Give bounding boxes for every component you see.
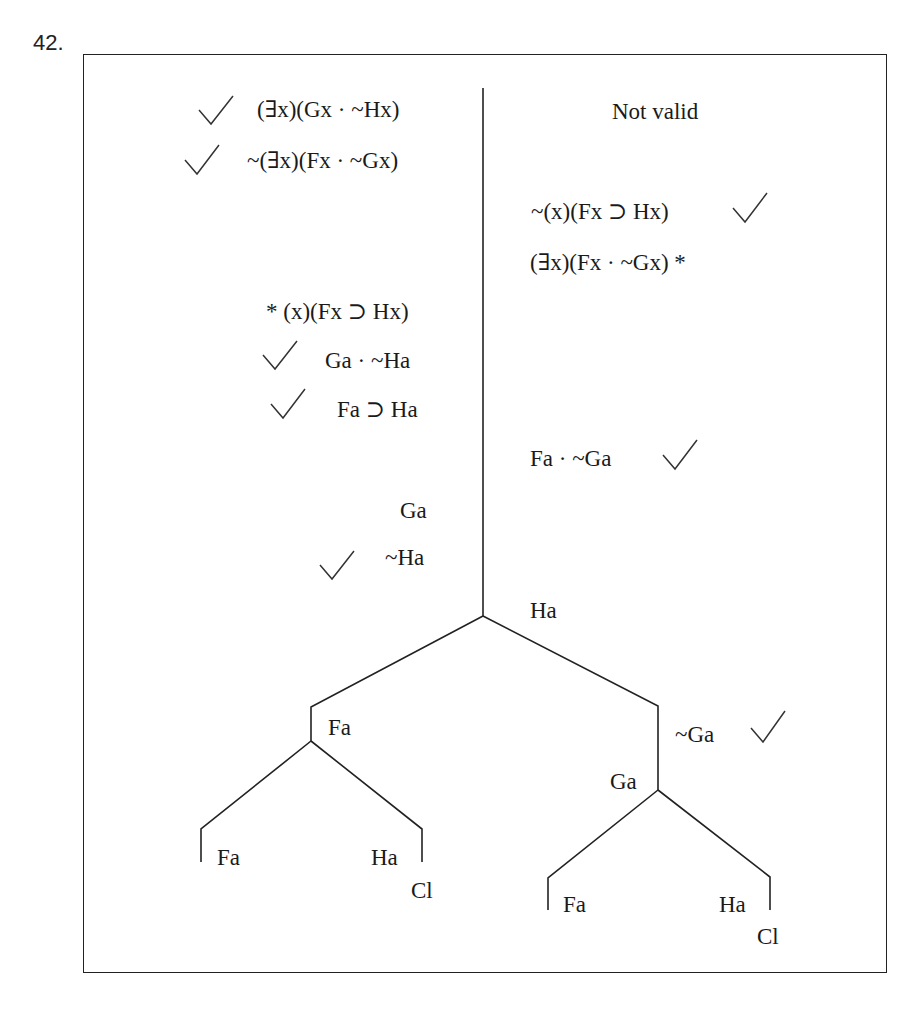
premise-2: ~(∃x)(Fx · ~Gx): [247, 149, 398, 172]
check-icon: [185, 145, 219, 174]
right-leaf-ha: Ha: [719, 893, 746, 916]
left-closed-label: Cl: [411, 879, 433, 902]
left-right-leaf-line: [311, 741, 422, 862]
check-icon: [271, 389, 305, 418]
formula-ha: Ha: [530, 599, 557, 622]
check-icon: [751, 711, 785, 742]
left-left-leaf-line: [201, 741, 311, 862]
formula-ga-not-ha: Ga · ~Ha: [325, 349, 410, 372]
right-branch-line: [483, 616, 658, 790]
right-branch-not-ga: ~Ga: [675, 723, 714, 746]
starred-formula: * (x)(Fx ⊃ Hx): [266, 300, 409, 323]
right-branch-ga: Ga: [610, 770, 637, 793]
check-marks: [185, 96, 785, 742]
left-leaf-fa: Fa: [217, 846, 240, 869]
left-branch-fa: Fa: [328, 716, 351, 739]
verdict-label: Not valid: [612, 100, 698, 123]
check-icon: [263, 341, 297, 369]
formula-fa-implies-ha: Fa ⊃ Ha: [337, 398, 418, 421]
left-leaf-ha: Ha: [371, 846, 398, 869]
tree-lines: [0, 0, 918, 1017]
right-right-leaf-line: [658, 790, 770, 910]
right-closed-label: Cl: [757, 925, 779, 948]
check-icon: [320, 551, 354, 579]
check-icon: [199, 96, 233, 124]
check-icon: [663, 440, 697, 469]
right-leaf-fa: Fa: [563, 893, 586, 916]
premise-1: (∃x)(Gx · ~Hx): [257, 98, 399, 121]
negated-conclusion: ~(x)(Fx ⊃ Hx): [531, 200, 669, 223]
formula-not-ha: ~Ha: [385, 546, 424, 569]
check-icon: [733, 193, 767, 222]
formula-ga: Ga: [400, 499, 427, 522]
formula-fa-not-ga: Fa · ~Ga: [530, 447, 611, 470]
starred-existential: (∃x)(Fx · ~Gx) *: [530, 251, 686, 274]
